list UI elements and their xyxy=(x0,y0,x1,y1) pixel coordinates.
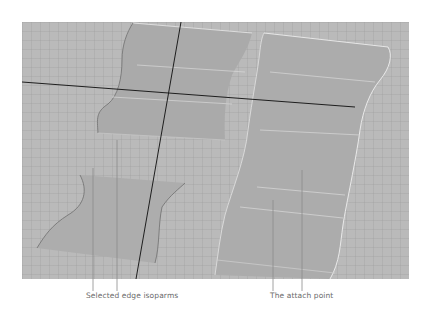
callout-selected-edge-isoparms: Selected edge isoparms xyxy=(86,291,178,300)
figure: Selected edge isoparms The attach point xyxy=(0,0,430,322)
right-surface xyxy=(215,33,390,279)
viewport-scene xyxy=(0,0,430,322)
callout-attach-point: The attach point xyxy=(270,291,333,300)
lower-left-surface xyxy=(37,175,185,263)
upper-left-surface xyxy=(97,23,252,140)
